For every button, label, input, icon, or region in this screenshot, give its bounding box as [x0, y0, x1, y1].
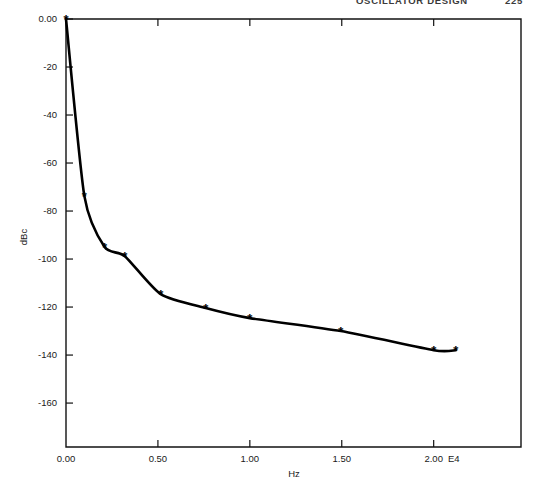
y-axis-tick-label: 0.00	[39, 13, 58, 24]
plot-frame	[66, 19, 521, 447]
x-axis-tick-label: 0.50	[149, 453, 168, 464]
x-axis-tick-label: 2.00	[424, 453, 443, 464]
x-axis-exponent-label: E4	[448, 453, 460, 464]
y-axis-tick-label: -140	[38, 349, 57, 360]
x-axis-tick-label-group: 0.000.501.001.502.00	[57, 453, 443, 464]
y-axis-title: dBc	[18, 229, 29, 246]
data-marker-group: **********	[63, 12, 459, 358]
y-axis-tick-label: -40	[43, 109, 57, 120]
y-axis-tick-label-group: 0.00-20-40-60-80-100-120-140-160	[38, 13, 57, 408]
x-axis-tick-label: 1.50	[333, 453, 352, 464]
x-axis-tick-group	[158, 19, 434, 447]
x-axis-tick-label: 0.00	[57, 453, 76, 464]
x-axis-title: Hz	[288, 468, 300, 479]
y-axis-tick-label: -100	[38, 253, 57, 264]
y-axis-tick-label: -160	[38, 397, 57, 408]
data-point-marker: *	[122, 249, 128, 264]
data-point-marker: *	[102, 240, 108, 255]
y-axis-tick-label: -120	[38, 301, 57, 312]
y-axis-tick-label: -20	[43, 61, 57, 72]
y-axis-tick-label: -80	[43, 205, 57, 216]
phase-noise-chart-figure: 0.00-20-40-60-80-100-120-140-160 0.000.5…	[0, 0, 542, 494]
y-axis-tick-label: -60	[43, 157, 57, 168]
chart-canvas: 0.00-20-40-60-80-100-120-140-160 0.000.5…	[0, 0, 542, 494]
data-point-marker: *	[82, 189, 88, 204]
data-point-marker: *	[453, 343, 459, 358]
x-axis-tick-label: 1.00	[241, 453, 260, 464]
data-series-line	[66, 19, 456, 351]
